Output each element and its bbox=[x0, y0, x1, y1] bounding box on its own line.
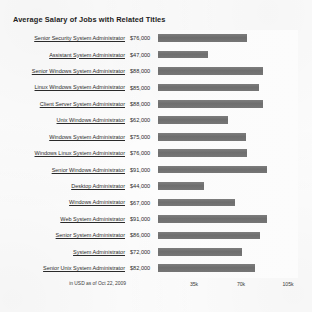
bar-value-label: $44,000 bbox=[128, 183, 158, 189]
bar-track bbox=[158, 46, 312, 62]
bar-category-label[interactable]: Senior Windows Administrator bbox=[0, 167, 128, 173]
table-row: Windows Administrator$67,000 bbox=[0, 194, 312, 210]
x-axis: in USD as of Oct 22, 2009 35k70k105k bbox=[0, 280, 312, 294]
bar-value-label: $88,000 bbox=[128, 68, 158, 74]
bar-track bbox=[158, 244, 312, 260]
bar-value-label: $47,000 bbox=[128, 52, 158, 58]
bar-value-label: $75,000 bbox=[128, 134, 158, 140]
axis-note: in USD as of Oct 22, 2009 bbox=[69, 281, 126, 286]
page-title: Average Salary of Jobs with Related Titl… bbox=[13, 15, 165, 24]
bar-category-label[interactable]: Desktop Administrator bbox=[0, 183, 128, 189]
bar-value-label: $72,000 bbox=[128, 249, 158, 255]
x-axis-tick-label: 70k bbox=[237, 281, 245, 287]
chart-page: Average Salary of Jobs with Related Titl… bbox=[0, 0, 312, 312]
x-axis-tick-label: 105k bbox=[282, 281, 293, 287]
bar-category-label[interactable]: Linux Windows System Administrator bbox=[0, 84, 128, 90]
bar bbox=[158, 67, 263, 75]
bar bbox=[158, 149, 247, 157]
bar-category-label[interactable]: Windows Administrator bbox=[0, 199, 128, 205]
bar-track bbox=[158, 162, 312, 178]
bar-value-label: $91,000 bbox=[128, 167, 158, 173]
bar-track bbox=[158, 211, 312, 227]
bar bbox=[158, 248, 242, 256]
bar-chart-rows: Senior Security System Administrator$76,… bbox=[0, 30, 312, 277]
bar-category-label[interactable]: Unix Windows Administrator bbox=[0, 117, 128, 123]
table-row: Desktop Administrator$44,000 bbox=[0, 178, 312, 194]
bar-track bbox=[158, 63, 312, 79]
bar-category-label[interactable]: Senior Windows System Administrator bbox=[0, 68, 128, 74]
bar-value-label: $88,000 bbox=[128, 101, 158, 107]
bar bbox=[158, 100, 263, 108]
bar-track bbox=[158, 194, 312, 210]
bar bbox=[158, 84, 259, 92]
bar-track bbox=[158, 96, 312, 112]
bar-category-label[interactable]: Web System Administrator bbox=[0, 216, 128, 222]
bar-value-label: $76,000 bbox=[128, 150, 158, 156]
bar bbox=[158, 34, 247, 42]
bar-value-label: $62,000 bbox=[128, 117, 158, 123]
bar-value-label: $86,000 bbox=[128, 232, 158, 238]
bar-category-label[interactable]: Client Server System Administrator bbox=[0, 101, 128, 107]
bar-value-label: $76,000 bbox=[128, 35, 158, 41]
bar bbox=[158, 133, 246, 141]
bar-category-label[interactable]: Senior Unix System Administrator bbox=[0, 265, 128, 271]
bar bbox=[158, 182, 204, 190]
bar-category-label[interactable]: Senior Security System Administrator bbox=[0, 35, 128, 41]
bar-track bbox=[158, 260, 312, 276]
bar-track bbox=[158, 129, 312, 145]
table-row: Senior Windows Administrator$91,000 bbox=[0, 162, 312, 178]
bar bbox=[158, 51, 208, 59]
x-axis-tick-label: 35k bbox=[190, 281, 198, 287]
bar-category-label[interactable]: Windows Linux System Administrator bbox=[0, 150, 128, 156]
table-row: Linux Windows System Administrator$85,00… bbox=[0, 79, 312, 95]
bar-category-label[interactable]: Assistant System Administrator bbox=[0, 52, 128, 58]
bar-track bbox=[158, 79, 312, 95]
bar-track bbox=[158, 30, 312, 46]
bar-category-label[interactable]: Senior System Administrator bbox=[0, 232, 128, 238]
bar-category-label[interactable]: System Administrator bbox=[0, 249, 128, 255]
table-row: Assistant System Administrator$47,000 bbox=[0, 46, 312, 62]
table-row: Senior System Administrator$86,000 bbox=[0, 227, 312, 243]
bar bbox=[158, 232, 260, 240]
bar bbox=[158, 116, 228, 124]
bar-track bbox=[158, 178, 312, 194]
bar bbox=[158, 264, 255, 272]
bar bbox=[158, 215, 267, 223]
bar-value-label: $85,000 bbox=[128, 85, 158, 91]
table-row: Web System Administrator$91,000 bbox=[0, 211, 312, 227]
bar-track bbox=[158, 112, 312, 128]
table-row: Windows Linux System Administrator$76,00… bbox=[0, 145, 312, 161]
bar-value-label: $91,000 bbox=[128, 216, 158, 222]
bar-track bbox=[158, 145, 312, 161]
bar-value-label: $67,000 bbox=[128, 200, 158, 206]
table-row: Client Server System Administrator$88,00… bbox=[0, 96, 312, 112]
table-row: Windows System Administrator$75,000 bbox=[0, 129, 312, 145]
table-row: Senior Unix System Administrator$82,000 bbox=[0, 260, 312, 276]
bar-value-label: $82,000 bbox=[128, 265, 158, 271]
table-row: Unix Windows Administrator$62,000 bbox=[0, 112, 312, 128]
bar bbox=[158, 199, 235, 207]
bar bbox=[158, 166, 267, 174]
table-row: Senior Security System Administrator$76,… bbox=[0, 30, 312, 46]
bar-category-label[interactable]: Windows System Administrator bbox=[0, 134, 128, 140]
table-row: Senior Windows System Administrator$88,0… bbox=[0, 63, 312, 79]
table-row: System Administrator$72,000 bbox=[0, 244, 312, 260]
bar-track bbox=[158, 227, 312, 243]
